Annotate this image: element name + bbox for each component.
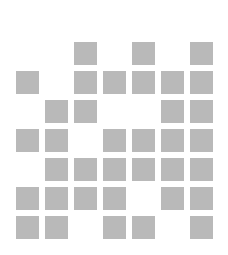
grid-cell bbox=[16, 71, 39, 94]
grid-cell bbox=[103, 187, 126, 210]
grid-cell bbox=[161, 71, 184, 94]
grid-cell bbox=[190, 100, 213, 123]
grid-cell bbox=[190, 216, 213, 239]
grid-cell bbox=[132, 216, 155, 239]
grid-cell bbox=[74, 71, 97, 94]
grid-cell bbox=[45, 187, 68, 210]
grid-cell bbox=[161, 129, 184, 152]
grid-cell bbox=[132, 71, 155, 94]
grid-cell bbox=[190, 158, 213, 181]
grid-cell bbox=[45, 216, 68, 239]
grid-cell bbox=[45, 100, 68, 123]
grid-cell bbox=[103, 158, 126, 181]
grid-cell bbox=[132, 158, 155, 181]
grid-cell bbox=[132, 129, 155, 152]
square-grid bbox=[16, 42, 212, 238]
grid-cell bbox=[103, 129, 126, 152]
grid-cell bbox=[16, 187, 39, 210]
grid-cell bbox=[190, 129, 213, 152]
grid-cell bbox=[190, 187, 213, 210]
grid-cell bbox=[74, 187, 97, 210]
grid-cell bbox=[103, 216, 126, 239]
grid-cell bbox=[190, 42, 213, 65]
grid-cell bbox=[74, 42, 97, 65]
grid-cell bbox=[161, 100, 184, 123]
grid-cell bbox=[45, 158, 68, 181]
grid-cell bbox=[16, 216, 39, 239]
grid-cell bbox=[132, 42, 155, 65]
grid-cell bbox=[103, 71, 126, 94]
grid-cell bbox=[16, 129, 39, 152]
grid-cell bbox=[74, 158, 97, 181]
grid-cell bbox=[74, 100, 97, 123]
grid-cell bbox=[190, 71, 213, 94]
grid-cell bbox=[161, 187, 184, 210]
grid-cell bbox=[161, 158, 184, 181]
grid-cell bbox=[45, 129, 68, 152]
